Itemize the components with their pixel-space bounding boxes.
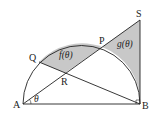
label-Q: Q [29, 52, 37, 63]
segment-QB [39, 62, 140, 104]
label-P: P [99, 35, 105, 46]
label-f-theta: f(θ) [59, 50, 73, 61]
geometry-diagram: A B S P Q R θ f(θ) g(θ) [0, 0, 157, 113]
label-B: B [142, 100, 149, 111]
label-angle-theta: θ [34, 94, 39, 104]
label-S: S [136, 8, 142, 19]
region-g-shaded [102, 20, 140, 104]
angle-arc [30, 99, 32, 104]
label-A: A [13, 99, 21, 110]
label-g-theta: g(θ) [117, 39, 133, 50]
label-R: R [61, 76, 68, 87]
